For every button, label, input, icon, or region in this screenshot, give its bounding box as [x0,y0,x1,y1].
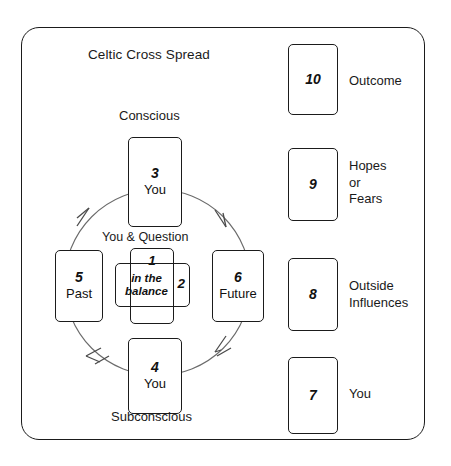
label-conscious: Conscious [119,108,180,123]
card-2[interactable]: in the balance 2 [115,263,190,307]
page-title: Celtic Cross Spread [88,47,210,62]
card-6-text: Future [219,287,257,302]
card-4[interactable]: 4 You [128,338,182,414]
card-6[interactable]: 6 Future [212,250,264,322]
card-7-number: 7 [309,388,317,404]
arrowhead-upper-left [77,208,89,226]
card-9-label: HopesorFears [349,158,435,208]
card-8-number: 8 [309,287,317,303]
label-you-and-question: You & Question [102,230,188,244]
card-5[interactable]: 5 Past [55,250,103,322]
card-6-number: 6 [234,270,242,286]
card-4-number: 4 [151,360,159,376]
card-7[interactable]: 7 [288,357,338,434]
card-10-number: 10 [305,72,321,88]
card-4-text: You [144,377,166,392]
card-8[interactable]: 8 [288,258,338,331]
card-8-label: OutsideInfluences [349,278,447,311]
card-10-label: Outcome [349,73,402,88]
card-3[interactable]: 3 You [128,137,182,227]
card-9[interactable]: 9 [288,148,338,221]
center-card-cluster: 1 in the balance 2 You & Question [104,238,214,330]
diagram-canvas: Celtic Cross Spread [0,0,451,466]
arrowhead-lower-left [86,348,109,364]
card-7-label: You [349,386,371,401]
card-2-number: 2 [177,276,185,291]
card-3-number: 3 [151,166,159,182]
arrowhead-upper-right [215,210,226,227]
card-5-number: 5 [75,270,83,286]
card-5-text: Past [66,287,92,302]
card-9-number: 9 [309,177,317,193]
card-10[interactable]: 10 [288,44,338,115]
label-subconscious: Subconscious [111,409,192,424]
card-3-text: You [144,183,166,198]
